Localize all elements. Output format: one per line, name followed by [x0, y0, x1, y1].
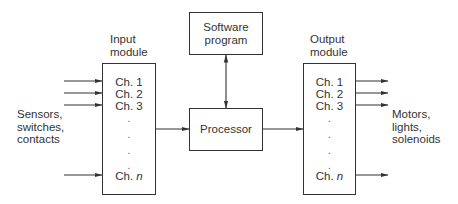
- outputs-label-line: solenoids: [392, 133, 441, 146]
- inputs-label: Sensors, switches, contacts: [17, 108, 64, 146]
- output-channel-2: Ch. 2: [304, 88, 355, 100]
- ellipsis-dot: .: [103, 146, 155, 156]
- output-channel-n: Ch. n: [304, 170, 355, 182]
- input-module-title-line: module: [110, 46, 148, 59]
- channel-prefix: Ch.: [316, 170, 334, 182]
- input-channel-1: Ch. 1: [103, 76, 155, 88]
- channel-prefix: Ch.: [115, 170, 133, 182]
- outputs-label: Motors, lights, solenoids: [392, 108, 441, 146]
- ellipsis-dot: .: [304, 114, 355, 124]
- outputs-label-line: lights,: [392, 121, 441, 134]
- outputs-label-line: Motors,: [392, 108, 441, 121]
- output-channel-1: Ch. 1: [304, 76, 355, 88]
- input-module-title-line: Input: [110, 33, 148, 46]
- ellipsis-dot: .: [103, 114, 155, 124]
- input-channel-2: Ch. 2: [103, 88, 155, 100]
- input-module-title: Input module: [110, 33, 148, 58]
- output-channel-3: Ch. 3: [304, 100, 355, 112]
- input-channel-3: Ch. 3: [103, 100, 155, 112]
- processor-label: Processor: [190, 123, 262, 136]
- inputs-label-line: Sensors,: [17, 108, 64, 121]
- output-module-title-line: Output: [310, 33, 348, 46]
- output-module-box: Ch. 1 Ch. 2 Ch. 3 . . . . Ch. n: [303, 63, 356, 195]
- software-program-label-line: Software: [190, 21, 262, 34]
- processor-box: Processor: [189, 108, 263, 151]
- input-channel-n: Ch. n: [103, 170, 155, 182]
- ellipsis-dot: .: [304, 146, 355, 156]
- inputs-label-line: contacts: [17, 133, 64, 146]
- channel-variable: n: [337, 170, 343, 182]
- output-module-title: Output module: [310, 33, 348, 58]
- input-module-box: Ch. 1 Ch. 2 Ch. 3 . . . . Ch. n: [102, 63, 156, 195]
- software-program-box: Software program: [189, 12, 263, 55]
- output-module-title-line: module: [310, 46, 348, 59]
- ellipsis-dot: .: [304, 130, 355, 140]
- ellipsis-dot: .: [103, 130, 155, 140]
- software-program-label-line: program: [190, 34, 262, 47]
- channel-variable: n: [136, 170, 142, 182]
- inputs-label-line: switches,: [17, 121, 64, 134]
